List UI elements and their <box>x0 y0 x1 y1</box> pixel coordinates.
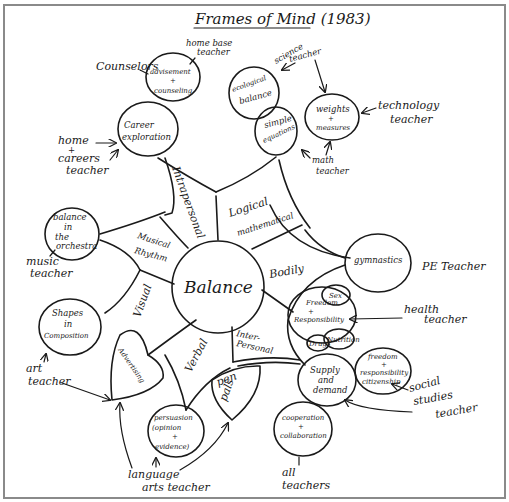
node-career-exploration: Career exploration <box>118 102 178 156</box>
arrow-home-careers-2 <box>110 150 118 160</box>
arrow-science-ecological <box>282 63 295 70</box>
svg-text:weights: weights <box>316 104 350 114</box>
diagram-title: Frames of Mind (1983) <box>194 10 371 28</box>
arrow-social-supply <box>345 400 412 412</box>
teacher-social-3: teacher <box>434 401 479 421</box>
svg-text:demand: demand <box>313 385 348 395</box>
arrow-math-weights <box>326 142 330 155</box>
node-pen-pals: pen pals <box>212 366 260 420</box>
svg-text:+: + <box>172 433 178 441</box>
teacher-art-2: teacher <box>28 375 71 388</box>
svg-text:+: + <box>308 308 314 316</box>
svg-text:collaboration: collaboration <box>280 432 327 440</box>
svg-text:Career: Career <box>124 120 155 130</box>
teacher-math-2: teacher <box>316 166 350 176</box>
teacher-technology-1: technology <box>378 99 440 112</box>
label-intrapersonal: Intrapersonal <box>169 164 208 241</box>
svg-text:orchestra: orchestra <box>56 241 97 251</box>
teacher-music-2: teacher <box>30 267 73 280</box>
teacher-all-1: all <box>282 466 296 479</box>
svg-text:Responsibility: Responsibility <box>293 316 345 324</box>
teacher-pe: PE Teacher <box>421 260 486 273</box>
svg-text:in: in <box>64 319 72 329</box>
teacher-math-1: math <box>312 155 334 165</box>
node-cooperation-collaboration: cooperation + collaboration <box>274 402 332 456</box>
arrow-language-advertising <box>120 403 132 468</box>
teacher-health-2: teacher <box>424 313 467 326</box>
node-supply-demand: Supply and demand <box>298 354 356 406</box>
teacher-language-arts-1: language <box>128 468 180 481</box>
svg-text:Balance: Balance <box>183 277 253 297</box>
svg-text:(opinion: (opinion <box>152 424 182 432</box>
teacher-technology-2: teacher <box>390 113 433 126</box>
svg-text:Supply: Supply <box>310 365 340 375</box>
svg-text:+: + <box>298 423 304 431</box>
arrow-science-weights <box>315 60 325 92</box>
label-bodily: Bodily <box>267 262 305 281</box>
node-ecological-balance: ecological balance <box>229 67 279 119</box>
teacher-art-1: art <box>26 362 43 375</box>
svg-text:counseling: counseling <box>154 87 193 95</box>
arrow-technology <box>362 108 376 113</box>
teacher-home-careers-4: teacher <box>66 164 109 177</box>
arrow-art-advertising <box>62 383 110 400</box>
svg-text:freedom: freedom <box>367 353 398 361</box>
svg-text:balance: balance <box>53 212 87 222</box>
label-logical-1: Logical <box>226 195 270 220</box>
svg-text:+: + <box>170 77 176 85</box>
teacher-counselors: Counselors <box>96 60 159 73</box>
label-visual: Visual <box>131 282 155 319</box>
mind-map: Frames of Mind (1983) <box>0 0 509 502</box>
node-persuasion: persuasion (opinion + evidence) <box>148 405 204 457</box>
svg-text:Advertising: Advertising <box>116 346 147 385</box>
svg-text:Freedom: Freedom <box>305 299 338 307</box>
svg-text:in: in <box>64 222 72 232</box>
svg-text:gymnastics: gymnastics <box>354 255 403 265</box>
node-nutrition: Nutrition <box>324 329 360 349</box>
arrow-art-shapes <box>44 354 46 362</box>
svg-text:measures: measures <box>316 124 351 132</box>
svg-text:Composition: Composition <box>44 332 89 340</box>
center-node: Balance <box>172 241 264 333</box>
svg-text:+: + <box>328 115 334 123</box>
svg-text:Shapes: Shapes <box>52 308 84 318</box>
svg-text:Nutrition: Nutrition <box>326 336 360 344</box>
svg-text:and: and <box>318 375 335 385</box>
svg-text:persuasion: persuasion <box>154 414 193 422</box>
node-advertising: Advertising <box>111 331 163 401</box>
arrow-health <box>350 318 402 319</box>
teacher-home-base-2: teacher <box>197 47 231 57</box>
node-simple-equations: simple equations <box>255 107 297 155</box>
svg-text:responsibility: responsibility <box>360 369 409 377</box>
svg-text:cooperation: cooperation <box>282 414 325 422</box>
svg-text:Sex: Sex <box>329 292 342 300</box>
node-gymnastics: gymnastics <box>345 234 411 292</box>
node-shapes-composition: Shapes in Composition <box>39 299 101 355</box>
arrow-math-simple <box>302 150 310 158</box>
node-weights-measures: weights + measures <box>305 94 359 140</box>
svg-text:exploration: exploration <box>122 132 171 142</box>
teacher-language-arts-2: arts teacher <box>142 481 211 494</box>
svg-text:evidence): evidence) <box>155 443 190 451</box>
label-verbal: Verbal <box>182 336 211 374</box>
node-freedom-citizenship: freedom + responsibility citizenship <box>355 348 411 394</box>
teacher-all-2: teachers <box>282 479 331 492</box>
svg-text:+: + <box>381 361 387 369</box>
